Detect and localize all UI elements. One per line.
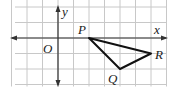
y-axis-arrow-down <box>56 80 61 87</box>
x-axis-label: x <box>153 22 160 37</box>
origin-label: O <box>43 41 53 56</box>
grid-lines <box>12 0 167 87</box>
y-axis-label: y <box>60 4 68 19</box>
point-label-p: P <box>77 22 86 37</box>
point-label-q: Q <box>108 71 118 86</box>
y-axis-arrow-up <box>56 5 61 12</box>
coordinate-plane: x y O PQR <box>0 0 174 91</box>
point-label-r: R <box>154 47 163 62</box>
